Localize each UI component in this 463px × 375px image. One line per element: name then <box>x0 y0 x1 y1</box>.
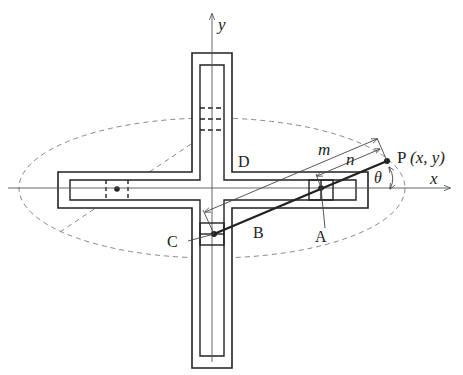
label-B: B <box>253 224 264 241</box>
label-P: P <box>397 148 406 167</box>
label-n: n <box>346 150 355 169</box>
ghost-pivot-left <box>114 186 120 192</box>
theta-arc <box>389 167 393 189</box>
trammel-diagram: y x D m n P (x, y) θ A B C <box>0 0 463 375</box>
label-C: C <box>167 233 178 250</box>
label-theta: θ <box>374 169 382 186</box>
label-A: A <box>315 228 327 245</box>
label-m: m <box>318 140 330 159</box>
label-P-coords: (x, y) <box>410 148 445 167</box>
x-axis-label: x <box>429 169 438 188</box>
y-axis-label: y <box>216 15 226 34</box>
label-D: D <box>238 153 250 170</box>
